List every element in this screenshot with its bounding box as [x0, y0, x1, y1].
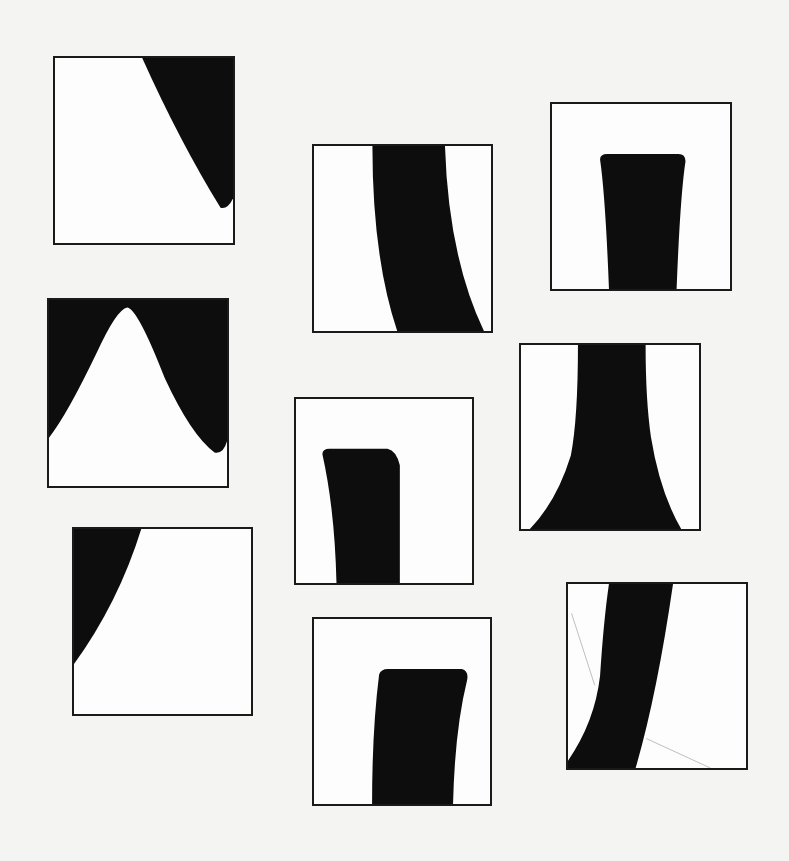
- shape-frame-8: [312, 617, 492, 806]
- curved-band-shape-icon: [314, 146, 491, 331]
- curved-wedge-shape-icon: [55, 58, 233, 243]
- bell-curve-shape-icon: [49, 300, 227, 486]
- rounded-column-shape-icon: [552, 104, 730, 289]
- shape-frame-2: [312, 144, 493, 333]
- bent-column-shape-icon: [296, 399, 472, 583]
- ascending-band-shape-icon: [568, 584, 746, 768]
- shape-frame-5: [294, 397, 474, 585]
- leaning-column-shape-icon: [314, 619, 490, 804]
- faint-line-1: [572, 613, 595, 685]
- shape-frame-3: [550, 102, 732, 291]
- corner-wedge-shape-icon: [74, 529, 251, 714]
- shape-frame-6: [519, 343, 701, 531]
- faint-line-2: [646, 739, 710, 768]
- flared-column-shape-icon: [521, 345, 699, 529]
- shape-frame-9: [566, 582, 748, 770]
- shape-frame-4: [47, 298, 229, 488]
- shape-frame-1: [53, 56, 235, 245]
- shape-frame-7: [72, 527, 253, 716]
